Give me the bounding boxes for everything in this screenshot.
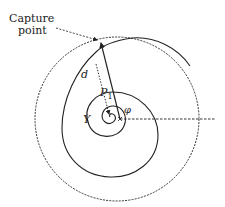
p-subscript: 1 [107, 92, 112, 101]
p1-label: P1 [99, 86, 113, 101]
d-label: d [81, 68, 88, 81]
y-label: Y [83, 113, 92, 126]
position-vector-arrow [101, 43, 120, 119]
capture-pointer-dashed-arrow [56, 28, 97, 40]
spiral-capture-diagram: Capture point d P1 Y φ [0, 0, 225, 207]
capture-point-label-line2: point [18, 24, 47, 37]
phi-label: φ [124, 104, 131, 115]
